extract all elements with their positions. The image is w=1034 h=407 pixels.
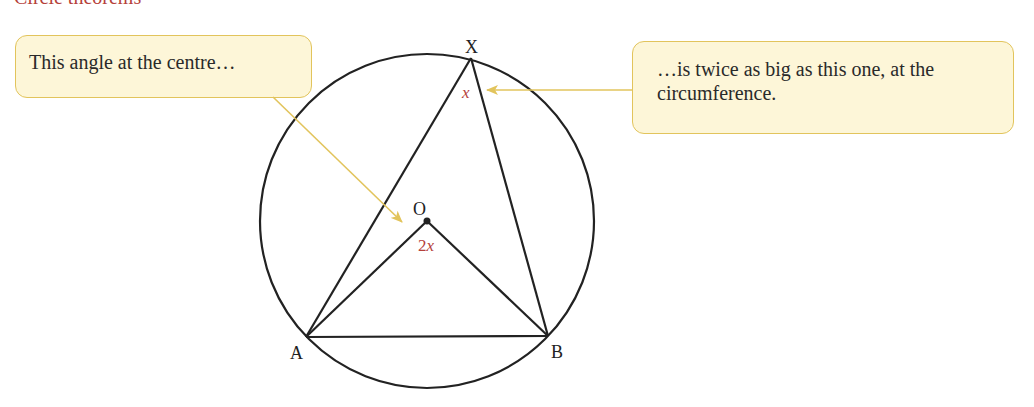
point-label-b: B (551, 342, 563, 362)
point-label-o: O (413, 199, 426, 219)
angle-coefficient: 2 (418, 236, 427, 255)
angle-variable: x (426, 236, 435, 255)
arrow-to-centre-angle (273, 97, 402, 222)
angle-label-circumference: x (461, 83, 470, 102)
radius-ob (427, 221, 548, 336)
point-label-x: X (465, 37, 478, 57)
triangle-axb (306, 58, 548, 337)
chord-xb (471, 58, 548, 336)
chord-ab (306, 336, 548, 337)
chord-xa (306, 58, 471, 337)
circle-theorem-diagram: X O A B x 2x (0, 0, 1034, 407)
point-label-a: A (290, 343, 303, 363)
angle-label-centre: 2x (418, 236, 435, 255)
radius-oa (306, 221, 427, 337)
